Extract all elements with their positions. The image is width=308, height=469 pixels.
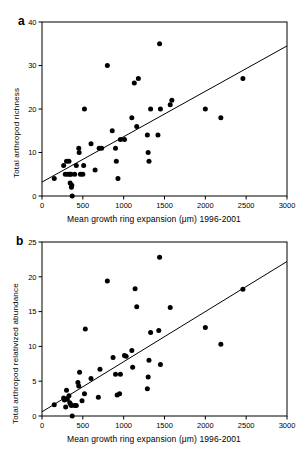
data-point (118, 372, 123, 377)
x-tick-label: 1500 (156, 421, 173, 430)
data-point (99, 146, 104, 151)
x-tick-label: 1000 (115, 201, 132, 210)
data-point (158, 107, 163, 112)
data-point (115, 176, 120, 181)
data-point (74, 403, 79, 408)
data-point (77, 150, 82, 155)
data-point (66, 159, 71, 164)
data-point (146, 375, 151, 380)
data-point (61, 163, 66, 168)
y-tick-label: 20 (28, 105, 36, 114)
figure-container: a Total arthropod richness 0500100015002… (0, 0, 308, 469)
regression-line (42, 46, 287, 182)
x-tick-label: 1500 (156, 201, 173, 210)
y-tick-label: 0 (32, 192, 36, 201)
panel-b: b Total arthropod relativized abundance … (0, 228, 308, 469)
y-tick-label: 25 (28, 238, 36, 247)
data-point (134, 304, 139, 309)
data-point (63, 404, 68, 409)
panel-a-plot: 050010001500200025003000010203040 (0, 0, 308, 212)
data-point (74, 163, 79, 168)
x-tick-label: 2000 (197, 201, 214, 210)
data-point (203, 325, 208, 330)
data-point (82, 107, 87, 112)
data-point (218, 115, 223, 120)
panel-a-x-axis-title: Mean growth ring expansion (μm) 1996-200… (0, 214, 308, 224)
data-point (64, 388, 69, 393)
data-point (110, 128, 115, 133)
data-point (146, 150, 151, 155)
data-point (155, 133, 160, 138)
data-point (133, 286, 138, 291)
data-point (158, 362, 163, 367)
data-point (134, 124, 139, 129)
data-point (146, 159, 151, 164)
data-point (148, 330, 153, 335)
data-point (129, 348, 134, 353)
data-point (240, 287, 245, 292)
data-point (69, 183, 74, 188)
x-tick-label: 3000 (279, 201, 296, 210)
data-point (93, 167, 98, 172)
y-tick-label: 0 (32, 412, 36, 421)
data-point (70, 414, 75, 419)
data-point (82, 391, 87, 396)
y-tick-label: 20 (28, 273, 36, 282)
data-point (52, 402, 57, 407)
data-point (130, 365, 135, 370)
y-tick-label: 5 (32, 377, 36, 386)
data-point (77, 370, 82, 375)
data-point (146, 358, 151, 363)
data-point (168, 305, 173, 310)
data-point (66, 393, 71, 398)
data-point (122, 137, 127, 142)
data-point (80, 172, 85, 177)
x-tick-label: 500 (77, 201, 90, 210)
panel-b-x-axis-title: Mean growth ring expansion (μm) 1996-200… (0, 434, 308, 444)
data-point (148, 107, 153, 112)
panel-a: a Total arthropod richness 0500100015002… (0, 0, 308, 234)
data-point (105, 278, 110, 283)
x-tick-label: 0 (40, 201, 44, 210)
data-point (145, 133, 150, 138)
data-point (136, 76, 141, 81)
data-point (114, 159, 119, 164)
y-tick-label: 10 (28, 342, 36, 351)
data-point (52, 176, 57, 181)
data-point (113, 372, 118, 377)
regression-line (42, 261, 287, 411)
data-point (156, 328, 161, 333)
data-point (124, 354, 129, 359)
y-tick-label: 30 (28, 61, 36, 70)
data-point (117, 391, 122, 396)
y-tick-label: 10 (28, 148, 36, 157)
data-point (157, 41, 162, 46)
data-point (76, 384, 81, 389)
data-point (169, 98, 174, 103)
data-point (80, 398, 85, 403)
plot-frame (42, 242, 287, 416)
data-point (105, 63, 110, 68)
data-point (218, 342, 223, 347)
data-point (240, 76, 245, 81)
data-point (145, 386, 150, 391)
data-point (111, 355, 116, 360)
x-tick-label: 2500 (238, 201, 255, 210)
data-point (97, 367, 102, 372)
x-tick-label: 2000 (197, 421, 214, 430)
data-point (129, 115, 134, 120)
data-point (76, 146, 81, 151)
data-point (168, 102, 173, 107)
data-point (96, 395, 101, 400)
data-point (72, 172, 77, 177)
x-tick-label: 0 (40, 421, 44, 430)
y-tick-label: 15 (28, 307, 36, 316)
panel-b-plot: 0500100015002000250030000510152025 (0, 228, 308, 433)
data-point (89, 141, 94, 146)
x-tick-label: 500 (77, 421, 90, 430)
data-point (83, 327, 88, 332)
x-tick-label: 1000 (115, 421, 132, 430)
y-tick-label: 40 (28, 18, 36, 27)
data-point (113, 146, 118, 151)
data-point (132, 80, 137, 85)
